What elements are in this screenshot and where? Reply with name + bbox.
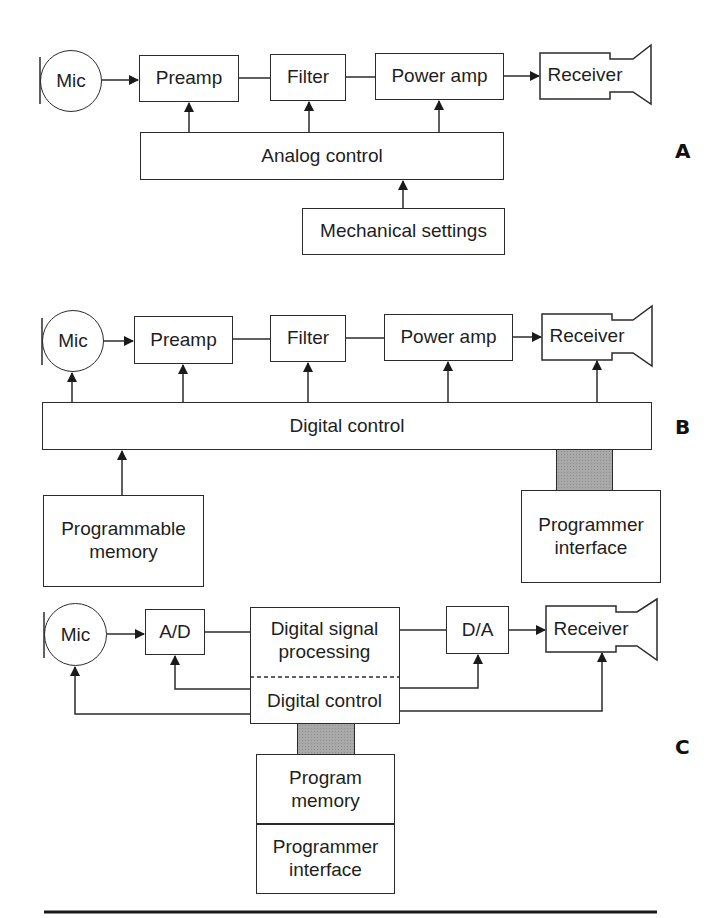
- program-memory-label: Program memory: [289, 767, 362, 813]
- da-converter-label: D/A: [462, 619, 494, 642]
- ad-converter-label: A/D: [159, 621, 191, 644]
- mic-a: Mic: [40, 50, 102, 112]
- preamp-a: Preamp: [139, 55, 239, 102]
- receiver-c-label: Receiver: [546, 618, 636, 641]
- preamp-b: Preamp: [134, 316, 233, 364]
- receiver-b-label: Receiver: [542, 325, 632, 348]
- program-memory-c: Program memory: [256, 754, 395, 825]
- panel-label-c: C: [675, 735, 690, 759]
- programmer-interface-c: Programmer interface: [256, 823, 395, 894]
- filter-a-label: Filter: [287, 66, 329, 89]
- digital-control-b: Digital control: [42, 402, 652, 450]
- analog-control-label: Analog control: [261, 145, 382, 168]
- panel-label-b: B: [675, 415, 690, 439]
- power-amp-a-label: Power amp: [391, 65, 487, 88]
- mechanical-settings-a: Mechanical settings: [302, 208, 505, 255]
- hearing-aid-block-diagrams: Mic Preamp Filter Power amp Receiver Ana…: [0, 0, 724, 918]
- power-amp-b: Power amp: [384, 314, 513, 361]
- filter-b-label: Filter: [287, 327, 329, 350]
- mic-a-label: Mic: [56, 70, 86, 92]
- panel-label-a: A: [675, 139, 690, 163]
- power-amp-a: Power amp: [375, 53, 504, 100]
- digital-control-c-label: Digital control: [251, 690, 398, 713]
- mic-b: Mic: [42, 310, 104, 372]
- mic-c: Mic: [44, 603, 107, 666]
- receiver-a-label: Receiver: [540, 64, 630, 87]
- programmer-interface-b-label: Programmer interface: [538, 514, 644, 560]
- interface-connector-b: [556, 449, 613, 491]
- programmable-memory-b: Programmable memory: [43, 495, 204, 587]
- digital-control-b-label: Digital control: [289, 415, 404, 438]
- preamp-a-label: Preamp: [156, 67, 223, 90]
- mechanical-settings-label: Mechanical settings: [320, 220, 487, 243]
- da-converter-c: D/A: [446, 606, 509, 654]
- mic-c-label: Mic: [61, 624, 91, 646]
- filter-a: Filter: [270, 54, 346, 101]
- interface-connector-c: [297, 723, 355, 755]
- programmable-memory-label: Programmable memory: [61, 518, 186, 564]
- mic-b-label: Mic: [58, 330, 88, 352]
- ad-converter-c: A/D: [145, 609, 205, 655]
- dsp-label: Digital signal processing: [251, 618, 398, 664]
- programmer-interface-b: Programmer interface: [521, 490, 661, 583]
- preamp-b-label: Preamp: [150, 329, 217, 352]
- programmer-interface-c-label: Programmer interface: [273, 836, 379, 882]
- filter-b: Filter: [270, 315, 346, 362]
- power-amp-b-label: Power amp: [400, 326, 496, 349]
- analog-control-a: Analog control: [140, 132, 504, 180]
- dsp-control-c: Digital signal processing Digital contro…: [250, 607, 400, 724]
